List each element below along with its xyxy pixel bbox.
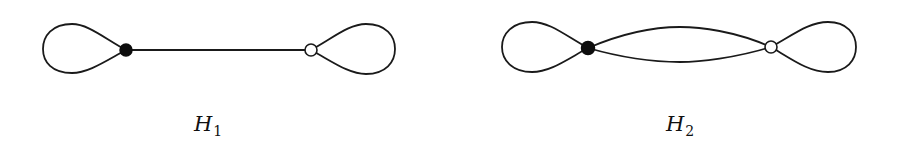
graph-h1 <box>43 24 395 74</box>
h2-filled-vertex <box>582 42 595 55</box>
graph-h2 <box>502 22 856 72</box>
h1-open-vertex <box>305 44 317 56</box>
graph-h2-label-subscript: 2 <box>685 123 694 139</box>
h1-filled-vertex <box>120 44 132 56</box>
h2-left-loop-edge <box>502 22 588 72</box>
h2-right-loop-edge <box>771 22 856 72</box>
graph-h1-label-subscript: 1 <box>213 123 222 139</box>
graph-h2-label: H2 <box>666 114 694 135</box>
h2-lower-curved-edge <box>588 47 771 62</box>
h1-left-loop-edge <box>43 24 126 73</box>
graph-h1-label: H1 <box>194 114 222 135</box>
graph-h1-label-main: H <box>194 112 212 136</box>
h2-open-vertex <box>765 41 777 53</box>
h2-upper-curved-edge <box>588 27 771 48</box>
graph-h2-label-main: H <box>666 112 684 136</box>
graph-diagram <box>0 0 898 153</box>
h1-right-loop-edge <box>311 24 395 74</box>
